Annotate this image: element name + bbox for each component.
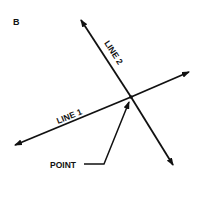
line-1-right-ray: [131, 72, 189, 97]
diagram-canvas: B LINE 1 LINE 2 POINT: [0, 0, 200, 199]
panel-label: B: [13, 17, 20, 27]
point-leader-arrow: [84, 102, 129, 164]
line-2-label: LINE 2: [102, 39, 125, 67]
intersection-point: [129, 95, 133, 99]
line-1-left-ray: [15, 97, 131, 145]
point-label: POINT: [50, 160, 77, 170]
line-2-lower-ray: [131, 97, 173, 165]
